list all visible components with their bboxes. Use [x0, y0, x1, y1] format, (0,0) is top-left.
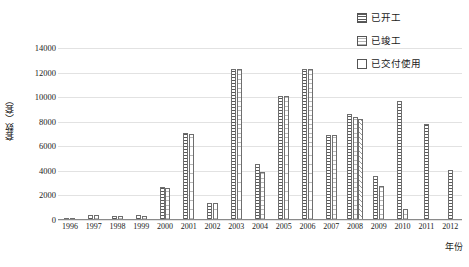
bar: [284, 96, 289, 220]
bar-group: [248, 48, 272, 220]
y-tick-label: 0: [10, 216, 56, 225]
bar: [237, 69, 242, 220]
legend-label-started: 已开工: [371, 6, 401, 29]
x-tick-label: 2012: [438, 222, 462, 236]
bar: [207, 203, 212, 220]
bar-group: [367, 48, 391, 220]
bar: [358, 119, 363, 220]
bar-group: [319, 48, 343, 220]
gridline: [58, 220, 462, 221]
y-tick-label: 12000: [10, 69, 56, 78]
bar-groups: [58, 48, 462, 220]
y-tick-label: 6000: [10, 142, 56, 151]
y-tick-label: 10000: [10, 93, 56, 102]
bar-group: [296, 48, 320, 220]
bar: [302, 69, 307, 220]
bar-group: [177, 48, 201, 220]
x-tick-label: 2002: [201, 222, 225, 236]
bar: [160, 187, 165, 220]
bar-group: [343, 48, 367, 220]
bar: [231, 69, 236, 220]
bar: [260, 172, 265, 220]
y-tick-label: 8000: [10, 118, 56, 127]
x-tick-label: 2009: [367, 222, 391, 236]
plot-area: [58, 48, 462, 220]
bar: [255, 164, 260, 221]
y-tick-label: 14000: [10, 44, 56, 53]
bar: [353, 117, 358, 220]
y-tick-label: 4000: [10, 167, 56, 176]
bar-group: [201, 48, 225, 220]
bar: [373, 176, 378, 220]
bar-chart: 已开工 已竣工 已交付使用 套数（套） 14000120001000080006…: [0, 0, 469, 267]
x-tick-label: 2008: [343, 222, 367, 236]
x-tick-label: 2011: [414, 222, 438, 236]
x-axis-line: [58, 219, 462, 220]
bar: [379, 186, 384, 220]
x-axis-ticks: 1996199719981999200020012002200320042005…: [58, 222, 462, 236]
bar-group: [438, 48, 462, 220]
x-tick-label: 1998: [106, 222, 130, 236]
bar: [347, 114, 352, 220]
legend-swatch-started-icon: [357, 13, 367, 23]
bar-group: [153, 48, 177, 220]
bar: [189, 134, 194, 220]
y-tick-label: 2000: [10, 191, 56, 200]
bar: [397, 101, 402, 220]
bar-group: [272, 48, 296, 220]
bar-group: [224, 48, 248, 220]
x-tick-label: 2005: [272, 222, 296, 236]
x-tick-label: 2004: [248, 222, 272, 236]
bar: [165, 188, 170, 220]
bar-group: [82, 48, 106, 220]
bar: [448, 170, 453, 220]
x-axis-title: 年份: [445, 240, 463, 253]
legend-swatch-completed-icon: [357, 36, 367, 46]
bar: [213, 203, 218, 220]
bar-group: [58, 48, 82, 220]
x-tick-label: 2003: [224, 222, 248, 236]
y-axis-ticks: 14000120001000080006000400020000: [8, 0, 56, 267]
x-tick-label: 2000: [153, 222, 177, 236]
x-tick-label: 2006: [296, 222, 320, 236]
x-tick-label: 1996: [58, 222, 82, 236]
bar: [278, 96, 283, 220]
bar: [183, 133, 188, 220]
bar-group: [129, 48, 153, 220]
x-tick-label: 1999: [129, 222, 153, 236]
bar-group: [391, 48, 415, 220]
legend-item-started: 已开工: [357, 6, 465, 29]
x-tick-label: 2010: [391, 222, 415, 236]
x-tick-label: 1997: [82, 222, 106, 236]
x-tick-label: 2007: [319, 222, 343, 236]
bar-group: [414, 48, 438, 220]
bar: [424, 124, 429, 220]
bar-group: [106, 48, 130, 220]
bar: [332, 135, 337, 220]
bar: [326, 135, 331, 220]
x-tick-label: 2001: [177, 222, 201, 236]
bar: [308, 69, 313, 220]
